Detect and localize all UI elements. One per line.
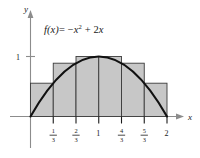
x-tick-4-numerator: 4: [120, 127, 124, 134]
figure-root: f(x)= −x2 + 2x y x 1: [0, 0, 200, 158]
x-tick-label-3: 1: [96, 129, 100, 138]
y-axis-label: y: [23, 4, 28, 14]
y-axis-arrow: [28, 10, 34, 18]
riemann-rect-4: [99, 57, 122, 117]
x-axis-arrow: [176, 114, 184, 120]
x-tick-label-1: 1 3: [50, 127, 57, 143]
x-tick-2-numerator: 2: [74, 127, 77, 134]
x-tick-1-denominator: 3: [52, 136, 55, 143]
x-tick-label-2: 2 3: [72, 127, 79, 143]
plot-area: y x 1 1 3 2 3: [0, 0, 200, 158]
x-tick-label-5: 5 3: [141, 127, 148, 143]
y-tick-1-label: 1: [16, 53, 20, 62]
x-tick-1-numerator: 1: [52, 127, 55, 134]
x-tick-label-4: 4 3: [118, 127, 125, 143]
x-axis-label: x: [187, 112, 192, 122]
riemann-rect-3: [76, 57, 99, 117]
x-tick-4-denominator: 3: [120, 136, 123, 143]
x-tick-5-denominator: 3: [143, 136, 146, 143]
x-tick-5-numerator: 5: [143, 127, 146, 134]
x-tick-label-6: 2: [165, 129, 169, 138]
x-tick-2-denominator: 3: [74, 136, 77, 143]
